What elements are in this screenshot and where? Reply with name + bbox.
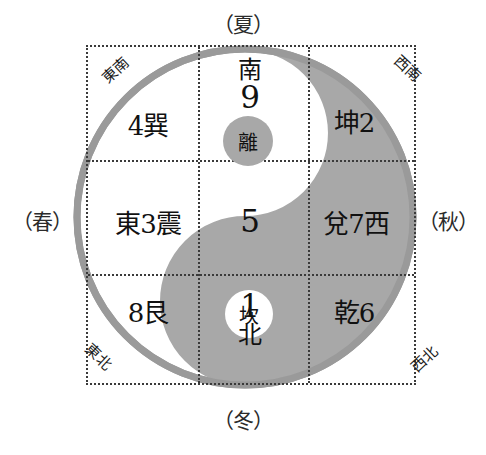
direction-label-north: 北 (238, 323, 262, 348)
cell-number-nine: 9 (240, 81, 260, 114)
season-label-autumn: （秋） (418, 205, 478, 235)
taiji-bagua-diagram: （夏） （冬） （春） （秋） 離 坎 4巽 坤2 東3震 (0, 0, 486, 455)
season-label-winter: （冬） (0, 404, 486, 434)
cell-number-center: 5 (240, 203, 260, 239)
cell-label-dui: 兌7西 (323, 203, 389, 240)
cell-label-xun: 4巽 (128, 105, 169, 142)
cell-south-kan: 1 北 (196, 288, 304, 400)
cell-center: 5 (205, 200, 295, 242)
cell-number-one: 1 (240, 290, 260, 323)
cell-southeast-qian: 乾6 (306, 290, 402, 330)
cell-label-zhen: 東3震 (115, 203, 181, 240)
cell-southwest-gen: 8艮 (100, 290, 196, 330)
cell-northwest-xun: 4巽 (100, 103, 196, 143)
cell-label-kun: 坤2 (334, 102, 375, 139)
season-label-summer: （夏） (0, 8, 486, 38)
cell-east-dui: 兌7西 (304, 200, 408, 242)
cell-north-li: 南 9 (196, 58, 304, 168)
grid-line-horizontal-2 (88, 274, 414, 276)
cell-label-qian: 乾6 (334, 292, 375, 329)
cell-northeast-kun: 坤2 (306, 100, 402, 140)
cell-west-zhen: 東3震 (96, 200, 200, 242)
cell-label-gen: 8艮 (128, 292, 169, 329)
season-label-spring: （春） (12, 205, 72, 235)
